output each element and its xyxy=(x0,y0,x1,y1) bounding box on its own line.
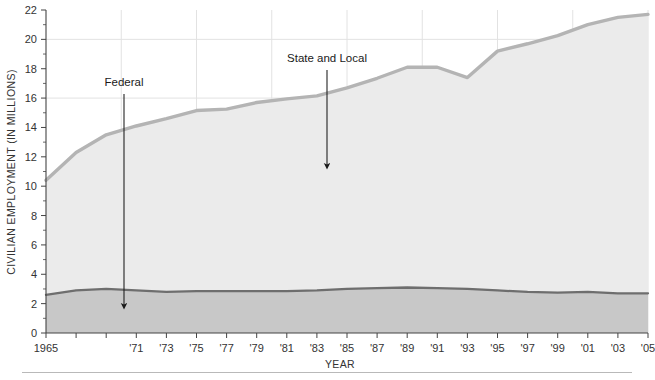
x-axis-tick-label: '95 xyxy=(490,342,504,354)
x-axis-tick-label: '03 xyxy=(611,342,625,354)
federal-band xyxy=(46,287,648,333)
x-axis-tick-label: '83 xyxy=(310,342,324,354)
x-axis-tick-label: '81 xyxy=(280,342,294,354)
x-axis-tick-label: '87 xyxy=(370,342,384,354)
y-axis-tick-label: 16 xyxy=(25,92,37,104)
y-axis-title: CIVILIAN EMPLOYMENT (IN MILLIONS) xyxy=(5,69,17,275)
chart-figure: 0246810121416182022 1965'71'73'75'77'79'… xyxy=(0,0,655,380)
y-axis-tick-label: 22 xyxy=(25,4,37,16)
x-axis-tick-label: '97 xyxy=(520,342,534,354)
x-axis-tick-label: '79 xyxy=(250,342,264,354)
x-axis-tick-label: '91 xyxy=(430,342,444,354)
x-axis-tick-label: '05 xyxy=(641,342,655,354)
y-axis-tick-label: 20 xyxy=(25,33,37,45)
footer-divider xyxy=(22,372,632,373)
x-axis-tick-label: '77 xyxy=(219,342,233,354)
y-axis-tick-label: 4 xyxy=(31,268,37,280)
x-axis-ticks xyxy=(46,333,648,338)
y-axis-tick-label: 2 xyxy=(31,298,37,310)
annotation-label-state-and-local: State and Local xyxy=(287,52,367,64)
y-axis-tick-label: 10 xyxy=(25,180,37,192)
x-axis-tick-label: '01 xyxy=(581,342,595,354)
civilian-employment-area-chart: 0246810121416182022 1965'71'73'75'77'79'… xyxy=(0,0,655,380)
y-axis-tick-label: 12 xyxy=(25,151,37,163)
x-axis-tick-label: '85 xyxy=(340,342,354,354)
x-axis-tick-label: '73 xyxy=(159,342,173,354)
annotation-label-federal: Federal xyxy=(105,76,144,88)
x-axis-tick-label: '93 xyxy=(460,342,474,354)
y-axis-tick-label: 8 xyxy=(31,210,37,222)
x-axis-title: YEAR xyxy=(325,358,355,370)
x-axis-tick-label: '89 xyxy=(400,342,414,354)
x-axis-tick-label: 1965 xyxy=(34,342,58,354)
y-axis-tick-label: 6 xyxy=(31,239,37,251)
y-axis-tick-label: 0 xyxy=(31,327,37,339)
x-axis-tick-label: '71 xyxy=(129,342,143,354)
x-axis-tick-label: '99 xyxy=(551,342,565,354)
x-axis-tick-label: '75 xyxy=(189,342,203,354)
y-axis-tick-label: 14 xyxy=(25,121,37,133)
y-axis-tick-label: 18 xyxy=(25,63,37,75)
